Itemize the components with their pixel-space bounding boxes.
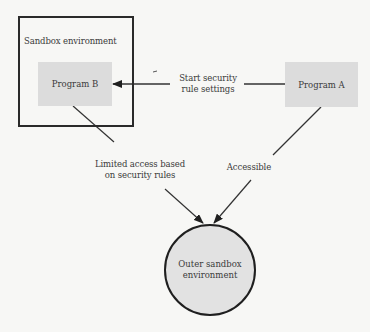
limited-access-line2: on security rules bbox=[90, 170, 190, 181]
arrow-accessible-top-segment bbox=[273, 107, 321, 155]
limited-access-label: Limited access based on security rules bbox=[90, 159, 190, 181]
sandbox-diagram: Sandbox environment Program B Program A … bbox=[0, 0, 370, 332]
arrow-accessible-bottom-segment bbox=[214, 180, 251, 223]
start-rules-label: Start security rule settings bbox=[168, 73, 248, 95]
arrow-limited-bottom-segment bbox=[165, 189, 203, 223]
program-b-node: Program B bbox=[38, 62, 112, 106]
outer-sandbox-line2: environment bbox=[178, 270, 241, 281]
sandbox-environment-label: Sandbox environment bbox=[24, 36, 84, 47]
accessible-label: Accessible bbox=[222, 162, 276, 173]
program-a-node: Program A bbox=[285, 62, 358, 107]
start-rules-line2: rule settings bbox=[168, 84, 248, 95]
program-b-label: Program B bbox=[52, 79, 98, 89]
outer-sandbox-line1: Outer sandbox bbox=[178, 259, 241, 270]
stray-mark bbox=[153, 71, 157, 72]
program-a-label: Program A bbox=[298, 80, 344, 90]
outer-sandbox-node: Outer sandbox environment bbox=[164, 224, 256, 316]
start-rules-line1: Start security bbox=[168, 73, 248, 84]
limited-access-line1: Limited access based bbox=[90, 159, 190, 170]
